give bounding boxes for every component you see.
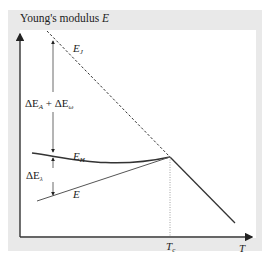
e-line [37, 157, 170, 201]
eh-label: EH [73, 151, 85, 164]
e-label: E [73, 189, 80, 200]
ej-label: EJ [73, 43, 83, 56]
lower-gap-label: ΔEλ [26, 170, 43, 183]
tc-label: Tc [166, 241, 175, 254]
ej-dashed-line [47, 31, 170, 157]
y-axis-label: Young's modulus E [20, 13, 109, 25]
x-axis-label: T [239, 243, 245, 254]
high-temp-line [170, 157, 235, 223]
diagram-canvas [0, 0, 270, 255]
upper-gap-label: ΔEA + ΔEω [25, 98, 74, 111]
